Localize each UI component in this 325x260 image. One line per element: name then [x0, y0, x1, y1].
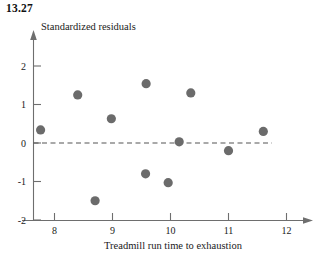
- x-tick-label: 11: [224, 225, 234, 236]
- y-tick-label: 2: [21, 61, 26, 72]
- x-tick-label: 9: [110, 225, 115, 236]
- axes-group: [22, 30, 313, 224]
- data-point: [142, 79, 151, 88]
- data-point: [186, 88, 195, 97]
- x-tick-label: 10: [166, 225, 176, 236]
- x-axis-title: Treadmill run time to exhaustion: [104, 240, 243, 251]
- y-tick-label: -2: [18, 215, 26, 226]
- y-axis-title: Standardized residuals: [41, 21, 136, 32]
- data-point: [224, 146, 233, 155]
- y-axis-arrowhead: [30, 30, 37, 40]
- x-axis-arrowhead: [303, 217, 313, 224]
- data-point: [36, 125, 45, 134]
- x-axis-ticks: [55, 213, 287, 221]
- x-tick-label: 12: [282, 225, 292, 236]
- data-point: [73, 90, 82, 99]
- data-point: [164, 178, 173, 187]
- y-tick-label: -1: [18, 176, 26, 187]
- data-point: [91, 196, 100, 205]
- figure-container: 13.27 2 1 0 -1 -2: [0, 0, 325, 260]
- data-point: [175, 137, 184, 146]
- y-tick-label: 1: [21, 99, 26, 110]
- y-tick-label: 0: [21, 138, 26, 149]
- y-axis-tick-labels: 2 1 0 -1 -2: [18, 61, 26, 226]
- data-point: [107, 114, 116, 123]
- data-point: [141, 169, 150, 178]
- scatter-plot: 2 1 0 -1 -2 8 9 10 11 12 Standardized re…: [0, 0, 325, 260]
- x-axis-tick-labels: 8 9 10 11 12: [52, 225, 292, 236]
- data-point-group: [36, 79, 268, 205]
- data-point: [259, 127, 268, 136]
- x-tick-label: 8: [52, 225, 57, 236]
